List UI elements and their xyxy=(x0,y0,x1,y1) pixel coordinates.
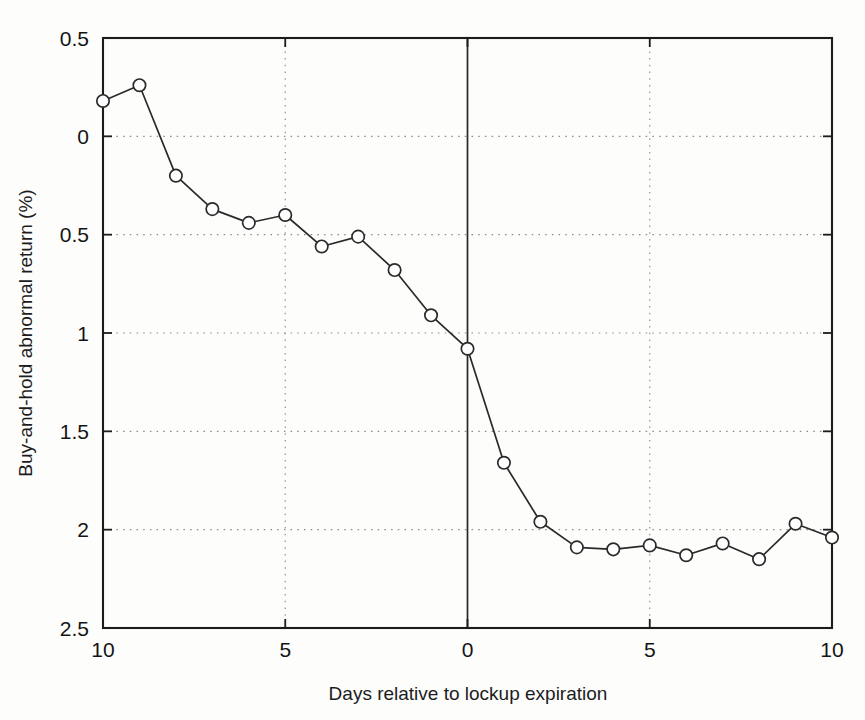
y-axis-title: Buy-and-hold abnormal return (%) xyxy=(15,189,36,476)
data-point-marker xyxy=(716,537,728,549)
y-axis-tick-label: 0.5 xyxy=(60,223,89,246)
y-axis-tick-label: 1 xyxy=(77,322,89,345)
x-axis-tick-label: 10 xyxy=(820,638,843,661)
data-point-marker xyxy=(571,541,583,553)
data-point-marker xyxy=(644,539,656,551)
data-point-marker xyxy=(97,95,109,107)
data-point-marker xyxy=(133,79,145,91)
y-axis-tick-label: 2.5 xyxy=(60,617,89,640)
y-axis-tick-label: 0.5 xyxy=(60,27,89,50)
chart-figure: 0.500.511.522.51050510 Buy-and-hold abno… xyxy=(0,0,865,720)
data-point-marker xyxy=(388,264,400,276)
data-point-marker xyxy=(826,531,838,543)
data-point-marker xyxy=(680,549,692,561)
y-axis-tick-label: 2 xyxy=(77,518,89,541)
data-point-marker xyxy=(753,553,765,565)
data-point-marker xyxy=(789,518,801,530)
x-axis-tick-label: 0 xyxy=(462,638,474,661)
data-point-marker xyxy=(206,203,218,215)
x-axis-tick-label: 10 xyxy=(91,638,114,661)
data-point-marker xyxy=(425,309,437,321)
data-point-marker xyxy=(607,543,619,555)
data-point-marker xyxy=(170,169,182,181)
line-chart: 0.500.511.522.51050510 Buy-and-hold abno… xyxy=(0,0,865,720)
data-point-marker xyxy=(279,209,291,221)
x-axis-tick-label: 5 xyxy=(279,638,291,661)
data-point-marker xyxy=(534,516,546,528)
data-point-marker xyxy=(352,230,364,242)
y-axis-tick-label: 0 xyxy=(77,125,89,148)
y-axis-tick-label: 1.5 xyxy=(60,420,89,443)
data-point-marker xyxy=(461,343,473,355)
data-point-marker xyxy=(243,217,255,229)
x-axis-tick-label: 5 xyxy=(644,638,656,661)
x-axis-title: Days relative to lockup expiration xyxy=(329,683,608,704)
data-point-marker xyxy=(498,457,510,469)
data-point-marker xyxy=(316,240,328,252)
